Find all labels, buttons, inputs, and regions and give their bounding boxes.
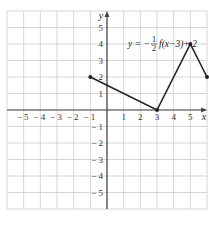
- x-tick-label: 5: [188, 112, 193, 122]
- x-tick-label: − 5: [17, 112, 29, 122]
- data-point: [88, 75, 92, 79]
- x-axis-label: x: [201, 111, 207, 122]
- equation-rhs: f(x−3)+ 2: [159, 39, 197, 50]
- y-axis-label: y: [98, 10, 104, 21]
- y-tick-label: 4: [99, 39, 104, 49]
- y-tick-label: − 3: [91, 155, 103, 165]
- x-tick-label: 2: [138, 112, 143, 122]
- x-tick-label: − 1: [83, 112, 95, 122]
- x-tick-label: − 2: [67, 112, 79, 122]
- x-tick-label: 3: [155, 112, 160, 122]
- equation-lhs: y = −: [127, 39, 150, 49]
- y-tick-label: 5: [99, 23, 104, 33]
- y-tick-label: − 4: [91, 171, 103, 181]
- y-tick-label: 1: [99, 89, 104, 99]
- x-tick-label: − 3: [50, 112, 62, 122]
- function-graph: − 5− 4− 3− 2− 11234554321− 1− 2− 3− 4− 5…: [0, 0, 209, 228]
- x-tick-label: 1: [121, 112, 126, 122]
- data-point: [205, 75, 209, 79]
- equation-fraction-denominator: 2: [152, 43, 157, 53]
- y-tick-label: − 2: [91, 138, 103, 148]
- y-tick-label: − 5: [91, 188, 103, 198]
- y-axis-arrow-icon: [105, 11, 110, 17]
- y-tick-label: 3: [99, 56, 104, 66]
- data-point: [155, 108, 159, 112]
- x-tick-label: 4: [171, 112, 176, 122]
- x-tick-label: − 4: [33, 112, 45, 122]
- y-tick-label: − 1: [91, 122, 103, 132]
